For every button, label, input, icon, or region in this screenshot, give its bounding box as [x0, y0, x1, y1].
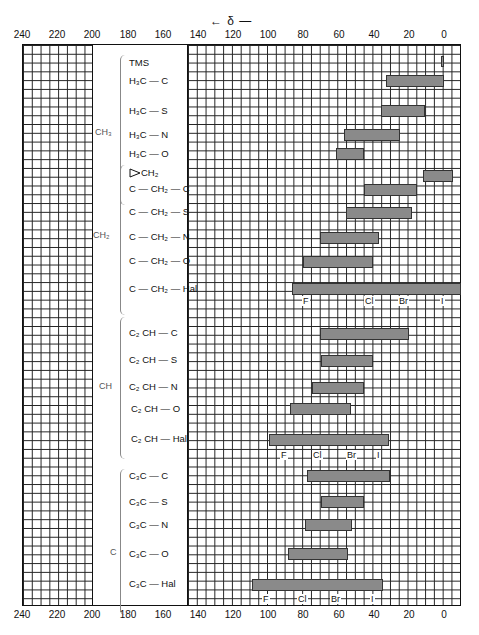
group-label-c: C [110, 547, 117, 557]
row-label-c-c: C₃C — C [129, 470, 168, 481]
row-label-cyclopropane: CH₂ [129, 167, 158, 178]
hal-mark-br-ch: Br [346, 450, 357, 460]
hal-mark-f-ch: F [280, 450, 288, 460]
hal-mark-cl-ch2: Cl [364, 296, 375, 306]
row-label-ch2-o: C — CH₂ — O [129, 255, 190, 266]
bar-ch2-c [364, 184, 417, 196]
row-label-ch-s: C₂ CH — S [129, 354, 177, 365]
top-axis-labels: 240 220 200 180 160 140 120 100 80 60 40… [0, 29, 479, 43]
row-label-h3c-s: H₃C — S [129, 105, 168, 116]
tick-200: 200 [84, 29, 101, 40]
tick-200-bottom: 200 [84, 609, 101, 620]
row-label-ch2-n: C — CH₂ — N [129, 231, 190, 242]
bar-ch2-o [303, 256, 373, 268]
bottom-axis-labels: 240 220 200 180 160 140 120 100 80 60 40… [0, 609, 479, 623]
brace-c [120, 469, 125, 615]
tick-140: 140 [190, 29, 207, 40]
hal-mark-cl-ch: Cl [312, 450, 323, 460]
frame-top-line [22, 44, 461, 45]
bar-h3c-n [344, 129, 400, 141]
tick-0: 0 [441, 29, 447, 40]
bar-ch-hal [269, 434, 389, 446]
tick-100-bottom: 100 [260, 609, 277, 620]
tick-180-bottom: 180 [120, 609, 137, 620]
row-label-ch-o: C₂ CH — O [131, 403, 180, 414]
bar-ch-s [321, 355, 373, 367]
tick-120: 120 [225, 29, 242, 40]
tick-140-bottom: 140 [190, 609, 207, 620]
row-label-h3c-o: H₃C — O [129, 148, 169, 159]
row-label-c-n: C₃C — N [129, 519, 168, 530]
hal-mark-f-c: F [262, 594, 270, 604]
cyclopropane-icon [129, 168, 141, 178]
tick-100: 100 [260, 29, 277, 40]
delta-axis-arrow: ← δ — [210, 14, 252, 28]
hal-mark-f-ch2: F [302, 296, 310, 306]
hal-mark-cl-c: Cl [297, 594, 308, 604]
row-label-ch-c: C₂ CH — C [129, 327, 178, 338]
row-label-c-hal: C₃C — Hal [129, 578, 176, 589]
tick-120-bottom: 120 [225, 609, 242, 620]
row-label-c-o: C₃C — O [129, 548, 169, 559]
group-label-ch2: CH₂ [93, 230, 110, 240]
bar-cyclopropane [423, 170, 453, 182]
brace-ch2 [120, 165, 125, 315]
row-label-ch2-hal: C — CH₂ — Hal [129, 283, 197, 294]
row-labels-panel: CH₃ TMS H₃C — C H₃C — S H₃C — N H₃C — O … [93, 45, 187, 605]
bar-ch-c [320, 328, 409, 340]
grid-left [22, 44, 93, 606]
brace-ch [120, 317, 125, 459]
cyclopropane-label: CH₂ [141, 167, 158, 178]
bar-ch2-n [320, 232, 379, 244]
bar-h3c-o [336, 148, 364, 160]
hal-mark-br-c: Br [330, 594, 341, 604]
bar-tms [441, 56, 444, 67]
tick-220-bottom: 220 [49, 609, 66, 620]
tick-180: 180 [120, 29, 137, 40]
hal-mark-i-c: I [370, 594, 375, 604]
tick-20: 20 [403, 29, 414, 40]
hal-mark-br-ch2: Br [398, 296, 409, 306]
bar-ch2-s [346, 207, 412, 219]
tick-80-bottom: 80 [297, 609, 308, 620]
row-label-tms: TMS [129, 57, 149, 68]
bar-c-n [305, 519, 352, 531]
bar-ch2-hal [292, 283, 461, 295]
row-label-ch-n: C₂ CH — N [129, 381, 178, 392]
tick-0-bottom: 0 [441, 609, 447, 620]
bar-c-hal [252, 579, 383, 591]
frame-bottom-line [22, 605, 461, 606]
bar-ch-o [290, 403, 351, 415]
tick-220: 220 [49, 29, 66, 40]
hal-mark-i-ch: I [376, 450, 381, 460]
group-label-ch: CH [99, 381, 112, 391]
tick-40-bottom: 40 [368, 609, 379, 620]
tick-160-bottom: 160 [155, 609, 172, 620]
tick-80: 80 [297, 29, 308, 40]
tick-60-bottom: 60 [333, 609, 344, 620]
row-label-h3c-n: H₃C — N [129, 129, 168, 140]
bar-h3c-c [386, 75, 444, 87]
row-label-ch-hal: C₂ CH — Hal [131, 433, 187, 444]
bar-c-s [321, 496, 364, 508]
row-label-ch2-s: C — CH₂ — S [129, 206, 189, 217]
bar-h3c-s [381, 105, 425, 117]
tick-40: 40 [368, 29, 379, 40]
tick-240: 240 [14, 29, 31, 40]
bar-c-o [288, 548, 348, 560]
row-label-h3c-c: H₃C — C [129, 75, 168, 86]
tick-160: 160 [155, 29, 172, 40]
group-label-ch3: CH₃ [95, 127, 112, 137]
bar-c-c [307, 470, 390, 482]
row-label-ch2-c: C — CH₂ — C [129, 183, 190, 194]
tick-240-bottom: 240 [14, 609, 31, 620]
row-label-c-s: C₃C — S [129, 496, 168, 507]
bar-ch-n [312, 382, 364, 394]
tick-20-bottom: 20 [403, 609, 414, 620]
tick-60: 60 [333, 29, 344, 40]
hal-mark-i-ch2: I [440, 296, 445, 306]
